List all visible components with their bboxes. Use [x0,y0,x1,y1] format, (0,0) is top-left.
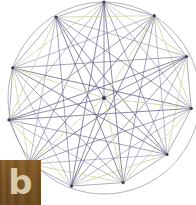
vertex-marker [185,55,188,58]
vertex-marker [54,16,57,19]
vertex-marker [122,181,125,184]
center-point-marker [102,96,106,100]
vertex-marker [153,14,156,17]
watermark-letter: b [0,160,41,205]
vertex-marker [190,107,193,110]
vertex-marker [7,118,10,121]
center-marker [102,96,106,100]
watermark-badge: b [0,160,41,205]
vertex-marker [102,0,105,3]
vertex-marker [70,185,73,188]
vertex-marker [11,66,14,69]
figure-root: b [0,0,196,205]
vertex-marker [165,153,168,156]
